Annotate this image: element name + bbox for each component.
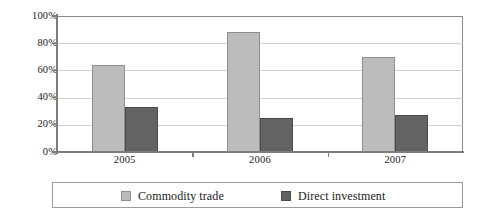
- y-axis-tick-label: 100%: [11, 11, 57, 22]
- y-axis-tick-label: 80%: [11, 38, 57, 49]
- x-axis-tick-label: 2007: [365, 154, 425, 166]
- bar-2006-commodity-trade: [227, 32, 260, 152]
- x-axis-line: [56, 151, 464, 153]
- bar-2005-direct-investment: [125, 107, 158, 152]
- bar-2007-commodity-trade: [362, 57, 395, 152]
- gridline: [57, 43, 463, 44]
- plot-area: [57, 16, 463, 152]
- chart-legend: Commodity trade Direct investment: [52, 182, 463, 208]
- x-axis-tick-label: 2006: [230, 154, 290, 166]
- y-axis: 0%20%40%60%80%100%: [0, 0, 57, 217]
- bar-2007-direct-investment: [395, 115, 428, 152]
- legend-swatch-icon-commodity-trade: [121, 191, 131, 201]
- y-axis-tick-label: 60%: [11, 65, 57, 76]
- x-axis-tick-mark: [192, 152, 193, 157]
- y-axis-tick-label: 0%: [11, 147, 57, 158]
- bar-2006-direct-investment: [260, 118, 293, 152]
- bar-2005-commodity-trade: [92, 65, 125, 152]
- y-axis-tick-label: 40%: [11, 92, 57, 103]
- legend-label-direct-investment: Direct investment: [298, 190, 385, 203]
- y-axis-line: [56, 14, 58, 154]
- y-axis-tick-label: 20%: [11, 119, 57, 130]
- x-axis-tick-mark: [328, 152, 329, 157]
- legend-item-direct-investment: Direct investment: [281, 183, 385, 209]
- legend-label-commodity-trade: Commodity trade: [138, 190, 224, 203]
- legend-swatch-icon-direct-investment: [281, 191, 291, 201]
- bar-chart: 0%20%40%60%80%100% 200520062007 Commodit…: [0, 0, 490, 217]
- x-axis-tick-label: 2005: [95, 154, 155, 166]
- legend-item-commodity-trade: Commodity trade: [121, 183, 224, 209]
